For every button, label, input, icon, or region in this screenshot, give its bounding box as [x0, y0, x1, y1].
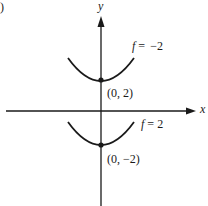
lower-vertex-dot [98, 142, 103, 147]
equals-sign: = [147, 117, 154, 131]
function-symbol: f [141, 117, 144, 131]
equals-sign: = [138, 39, 145, 53]
x-axis-arrow-icon [186, 108, 196, 115]
level-value: 2 [157, 117, 163, 131]
level-value: −2 [150, 39, 163, 53]
function-symbol: f [132, 39, 135, 53]
y-axis-label: y [98, 0, 103, 12]
upper-curve-label: f = −2 [132, 40, 163, 52]
upper-vertex-dot [98, 77, 103, 82]
lower-vertex-label: (0, −2) [107, 153, 140, 165]
panel-label-fragment: ) [0, 1, 4, 13]
y-axis-arrow-icon [98, 16, 105, 27]
x-axis-label: x [200, 103, 205, 115]
level-curves-diagram [0, 0, 208, 206]
lower-curve-label: f = 2 [141, 118, 163, 130]
upper-vertex-label: (0, 2) [107, 87, 133, 99]
